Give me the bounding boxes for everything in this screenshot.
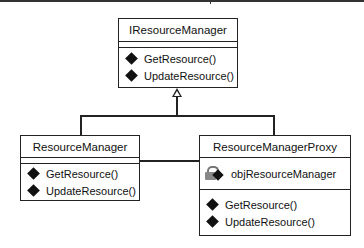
inheritance-drop-right (273, 115, 275, 136)
attribute-label: objResourceManager (231, 168, 336, 180)
method-row[interactable]: UpdateResource() (21, 182, 139, 199)
method-compartment: GetResource() UpdateResource() (119, 48, 237, 84)
class-name: ResourceManagerProxy (200, 136, 350, 158)
inheritance-bus (80, 115, 274, 117)
realization-arrowhead-fill (174, 91, 180, 96)
public-method-diamond-icon (206, 198, 219, 211)
method-label: GetResource() (46, 168, 118, 180)
method-compartment: GetResource() UpdateResource() (21, 164, 139, 199)
method-row[interactable]: UpdateResource() (200, 213, 350, 230)
association-line (139, 160, 200, 162)
private-attribute-lock-icon (205, 166, 225, 182)
public-method-diamond-icon (27, 167, 40, 180)
class-name: IResourceManager (119, 19, 237, 42)
method-row[interactable]: GetResource() (200, 196, 350, 213)
class-name: ResourceManager (21, 136, 139, 158)
class-box-resourcemanager[interactable]: ResourceManager GetResource() UpdateReso… (20, 135, 140, 201)
public-method-diamond-icon (206, 215, 219, 228)
attribute-row[interactable]: objResourceManager (200, 164, 336, 184)
method-label: UpdateResource() (144, 70, 234, 82)
method-label: GetResource() (225, 199, 297, 211)
inheritance-drop-left (80, 115, 82, 136)
class-box-resourcemanagerproxy[interactable]: ResourceManagerProxy objResourceManager … (199, 135, 351, 236)
method-label: GetResource() (144, 53, 216, 65)
top-border-tick (210, 0, 211, 4)
public-method-diamond-icon (125, 52, 138, 65)
method-row[interactable]: UpdateResource() (119, 67, 237, 84)
top-border-line (0, 0, 364, 2)
attribute-compartment: objResourceManager (200, 158, 350, 190)
public-method-diamond-icon (27, 184, 40, 197)
method-label: UpdateResource() (225, 216, 315, 228)
public-method-diamond-icon (125, 69, 138, 82)
method-row[interactable]: GetResource() (21, 165, 139, 182)
method-compartment: GetResource() UpdateResource() (200, 190, 350, 230)
class-box-iresourcemanager[interactable]: IResourceManager GetResource() UpdateRes… (118, 18, 238, 88)
inheritance-stem (176, 96, 178, 116)
method-row[interactable]: GetResource() (119, 50, 237, 67)
method-label: UpdateResource() (46, 185, 136, 197)
